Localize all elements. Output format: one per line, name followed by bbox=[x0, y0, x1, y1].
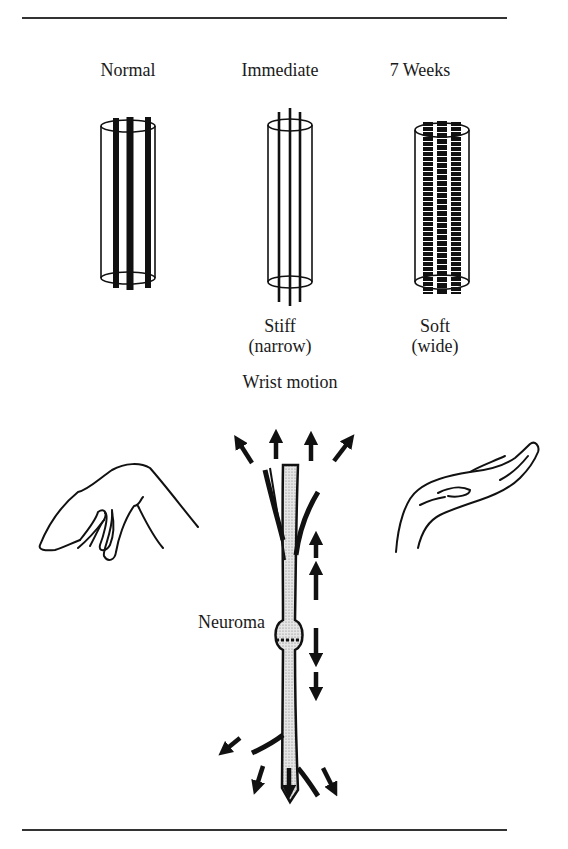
arrow-down-left-icon bbox=[224, 738, 240, 751]
arrow-up-left-icon bbox=[238, 441, 252, 463]
nerve-illustration bbox=[252, 465, 318, 802]
arrow-down-right-icon bbox=[323, 768, 334, 790]
cylinder-immediate bbox=[268, 108, 312, 306]
arrow-down-icon bbox=[256, 766, 263, 788]
extended-hand-icon bbox=[396, 443, 538, 552]
cylinder-7-weeks bbox=[415, 121, 469, 294]
cylinder-normal bbox=[101, 117, 155, 290]
flexed-hand-icon bbox=[40, 464, 198, 560]
arrow-up-right-icon bbox=[334, 440, 350, 461]
diagram-artwork bbox=[0, 0, 568, 849]
